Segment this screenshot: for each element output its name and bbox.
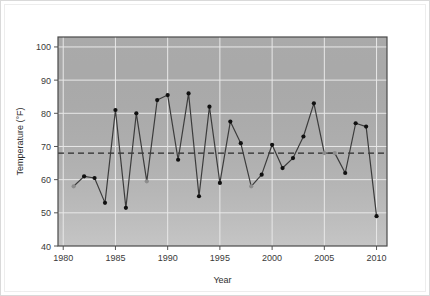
data-point-marker [92,176,96,180]
data-point-marker [228,120,232,124]
data-point-marker [207,105,211,109]
data-point-marker [270,143,274,147]
data-point-marker [249,184,253,188]
data-point-marker [134,111,138,115]
data-point-marker [197,194,201,198]
data-point-marker [239,141,243,145]
data-point-marker [301,134,305,138]
x-tick-label: 2005 [314,253,334,263]
data-point-marker [124,206,128,210]
y-axis-label: Temperature (°F) [15,107,25,175]
data-point-marker [260,173,264,177]
y-tick-label: 80 [41,109,51,119]
data-point-marker [82,174,86,178]
y-tick-label: 60 [41,175,51,185]
x-tick-label: 1990 [158,253,178,263]
data-point-marker [145,179,149,183]
data-point-marker [280,166,284,170]
data-point-marker [176,158,180,162]
x-axis-label: Year [213,275,231,285]
data-point-marker [291,156,295,160]
data-point-marker [333,151,337,155]
data-point-marker [374,214,378,218]
y-tick-label: 90 [41,76,51,86]
data-point-marker [186,91,190,95]
temperature-line-chart: 405060708090100 198019851990199520002005… [1,1,430,296]
data-point-marker [72,184,76,188]
data-point-marker [343,171,347,175]
plot-area [58,37,387,246]
data-point-marker [103,201,107,205]
x-tick-label: 2010 [367,253,387,263]
y-tick-label: 50 [41,208,51,218]
x-tick-label: 1995 [210,253,230,263]
y-tick-label: 70 [41,142,51,152]
data-point-marker [312,101,316,105]
data-point-marker [155,98,159,102]
data-point-marker [218,181,222,185]
chart-figure: 405060708090100 198019851990199520002005… [0,0,430,296]
y-tick-label: 40 [41,242,51,252]
data-point-marker [322,151,326,155]
data-point-marker [364,124,368,128]
data-point-marker [166,93,170,97]
x-tick-label: 1980 [53,253,73,263]
x-axis-ticks: 1980198519901995200020052010 [53,246,386,263]
y-axis-ticks: 405060708090100 [36,42,58,251]
y-tick-label: 100 [36,42,51,52]
x-tick-label: 2000 [262,253,282,263]
data-point-marker [113,108,117,112]
x-tick-label: 1985 [105,253,125,263]
data-point-marker [354,121,358,125]
